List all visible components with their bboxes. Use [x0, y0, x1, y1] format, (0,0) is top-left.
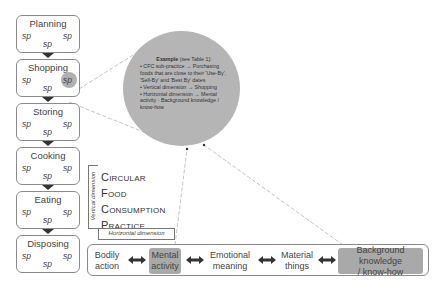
element-bodily-action: Bodilyaction	[92, 248, 122, 274]
stage-cooking: Cooking sp sp sp	[16, 147, 80, 185]
down-arrow-icon	[42, 185, 54, 190]
double-arrow-icon	[186, 256, 204, 264]
sub-practice: sp	[22, 163, 31, 173]
example-bullet: • Horizontal dimension → Mental activity…	[140, 91, 228, 112]
example-heading: Example (see Table 1):	[140, 56, 228, 63]
double-arrow-icon	[318, 256, 336, 264]
cfcp-title: CIRCULAR FOOD CONSUMPTION PRACTICE	[101, 170, 165, 234]
stage-title: Planning	[17, 18, 79, 29]
cfcp-word: CONSUMPTION	[101, 202, 165, 218]
down-arrow-icon	[42, 97, 54, 102]
element-mental-activity: Mentalactivity	[149, 248, 181, 274]
double-arrow-icon	[258, 256, 276, 264]
sub-practice: sp	[22, 207, 31, 217]
example-text: Example (see Table 1): • CFC sub-practic…	[140, 56, 228, 111]
sub-practice: sp	[22, 75, 31, 85]
sub-practice: sp	[63, 207, 72, 217]
cfcp-word: FOOD	[101, 186, 165, 202]
down-arrow-icon	[42, 53, 54, 58]
stage-title: Disposing	[17, 238, 79, 249]
stage-title: Eating	[17, 194, 79, 205]
stage-shopping: Shopping sp sp sp	[16, 59, 80, 97]
sub-practice: sp	[43, 215, 52, 225]
stage-eating: Eating sp sp sp	[16, 191, 80, 229]
horizontal-dimension-label: Horizontal dimension	[99, 230, 174, 236]
element-material-things: Materialthings	[278, 248, 316, 274]
arrowhead-dot	[203, 144, 205, 146]
stage-storing: Storing sp sp sp	[16, 103, 80, 141]
sub-practice: sp	[63, 163, 72, 173]
connector-mental-activity-to-example	[175, 149, 187, 245]
sub-practice: sp	[43, 39, 52, 49]
sub-practice: sp	[63, 251, 72, 261]
sub-practice: sp	[22, 31, 31, 41]
stage-planning: Planning sp sp sp	[16, 15, 80, 53]
arrowhead-dot	[186, 148, 188, 150]
element-emotional-meaning: Emotionalmeaning	[206, 248, 254, 274]
example-bullet: • CFC sub-practice → Purchasing foods th…	[140, 63, 228, 84]
example-bullet: • Vertical dimension → Shopping	[140, 84, 228, 91]
element-background-knowledge: Background knowledge/ know-how	[338, 248, 423, 274]
sub-practice: sp	[63, 31, 72, 41]
horizontal-dimension-bar: Bodilyaction Mentalactivity Emotionalmea…	[87, 244, 429, 276]
double-arrow-icon	[128, 256, 146, 264]
vertical-dimension-label: Vertical dimension	[90, 164, 96, 228]
sub-practice-highlighted: sp	[63, 75, 72, 85]
cfcp-word: CIRCULAR	[101, 170, 165, 186]
stage-title: Cooking	[17, 150, 79, 161]
sub-practice: sp	[43, 259, 52, 269]
sub-practice: sp	[43, 83, 52, 93]
sub-practice: sp	[43, 127, 52, 137]
sub-practice: sp	[63, 119, 72, 129]
sub-practice: sp	[22, 251, 31, 261]
stage-disposing: Disposing sp sp sp	[16, 235, 80, 273]
sub-practice: sp	[43, 171, 52, 181]
down-arrow-icon	[42, 141, 54, 146]
sub-practice: sp	[22, 119, 31, 129]
down-arrow-icon	[42, 229, 54, 234]
connector-background-to-example	[204, 145, 343, 245]
stage-title: Storing	[17, 106, 79, 117]
horizontal-dimension-box: Horizontal dimension	[98, 228, 175, 240]
